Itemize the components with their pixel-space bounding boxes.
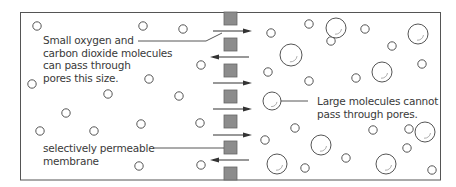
arrow-head: [210, 157, 219, 162]
label-line: selectively permeable: [43, 142, 154, 155]
arrow-head: [210, 54, 219, 59]
small-molecule-icon: [428, 166, 436, 174]
label-line: can pass through: [43, 59, 172, 72]
small-molecule-icon: [418, 60, 426, 68]
large-molecule-icon: [415, 122, 435, 142]
arrow-right-icon: [213, 28, 252, 33]
large-molecule-outline: [311, 135, 331, 155]
label-line: pass through pores.: [317, 108, 438, 121]
arrow-right-icon: [213, 132, 252, 137]
small-molecule-icon: [264, 68, 272, 76]
small-molecule-icon: [62, 109, 70, 117]
large-molecule-outline: [267, 154, 287, 174]
small-molecule-icon: [197, 161, 205, 169]
small-molecule-icon: [305, 20, 313, 28]
arrow-right-icon: [213, 80, 252, 85]
small-molecule-icon: [139, 22, 147, 30]
large-molecule-icon: [280, 44, 302, 66]
large-molecule-icon: [372, 62, 392, 82]
diagram-stage: Small oxygen and carbon dioxide molecule…: [0, 0, 456, 187]
large-molecule-outline: [372, 62, 392, 82]
large-molecule-icon: [376, 154, 396, 174]
small-molecule-icon: [33, 22, 41, 30]
membrane-segment: [224, 90, 237, 103]
small-molecule-icon: [90, 127, 98, 135]
membrane-segment: [224, 38, 237, 51]
small-molecule-icon: [261, 136, 269, 144]
membrane-label: selectively permeable membrane: [43, 142, 154, 167]
small-molecule-icon: [291, 124, 299, 132]
small-molecule-icon: [361, 25, 369, 33]
arrow-left-icon: [210, 54, 249, 59]
large-molecule-icon: [267, 154, 287, 174]
small-molecule-icon: [403, 144, 411, 152]
large-molecule-icon: [326, 18, 346, 38]
large-molecule-outline: [376, 154, 396, 174]
label-line: pores this size.: [43, 72, 172, 85]
small-molecule-icon: [137, 120, 145, 128]
membrane-segment: [224, 64, 237, 77]
small-molecule-icon: [197, 61, 205, 69]
large-molecule-icon: [263, 92, 281, 110]
label-line: Large molecules cannot: [317, 95, 438, 108]
small-molecule-icon: [305, 77, 313, 85]
membrane-segment: [224, 12, 237, 25]
large-molecule-outline: [326, 18, 346, 38]
arrow-head: [243, 28, 252, 33]
membrane-segment: [224, 167, 237, 180]
small-molecule-icon: [388, 42, 396, 50]
small-molecule-icon: [342, 154, 350, 162]
small-molecule-icon: [369, 126, 377, 134]
arrow-left-icon: [210, 157, 249, 162]
membrane-segment: [224, 115, 237, 128]
large-molecule-icon: [311, 135, 331, 155]
arrow-head: [243, 106, 252, 111]
small-molecules-label: Small oxygen and carbon dioxide molecule…: [43, 34, 172, 84]
arrow-head: [243, 132, 252, 137]
large-molecule-icon: [408, 24, 428, 44]
label-line: membrane: [43, 155, 154, 168]
label-line: carbon dioxide molecules: [43, 47, 172, 60]
arrow-head: [243, 80, 252, 85]
large-molecule-outline: [408, 24, 428, 44]
small-molecule-icon: [104, 90, 112, 98]
arrow-right-icon: [213, 106, 252, 111]
small-molecule-icon: [267, 29, 275, 37]
large-molecule-outline: [415, 122, 435, 142]
label-line: Small oxygen and: [43, 34, 172, 47]
small-molecule-icon: [36, 127, 44, 135]
small-molecule-icon: [405, 125, 413, 133]
small-molecule-icon: [28, 80, 36, 88]
small-molecule-icon: [301, 164, 309, 172]
membrane-segment: [224, 141, 237, 154]
large-molecule-outline: [263, 92, 281, 110]
small-molecule-icon: [196, 119, 204, 127]
large-molecules-label: Large molecules cannot pass through pore…: [317, 95, 438, 120]
large-molecule-outline: [280, 44, 302, 66]
selectively-permeable-membrane: [224, 12, 237, 180]
small-molecule-icon: [175, 92, 183, 100]
small-molecule-icon: [352, 74, 360, 82]
small-molecule-icon: [179, 25, 187, 33]
